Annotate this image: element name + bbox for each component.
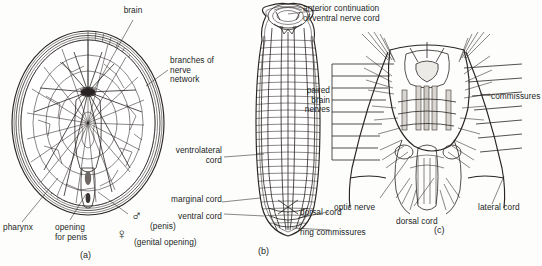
label-penis: (penis) bbox=[150, 222, 176, 232]
male-symbol-icon: ♂ bbox=[131, 208, 142, 223]
label-dorsal-cord-c: dorsal cord bbox=[396, 217, 438, 227]
panel-c-illustration bbox=[332, 28, 522, 228]
panel-caption-b: (b) bbox=[258, 246, 269, 256]
label-opening-for-penis: opening for penis bbox=[55, 223, 103, 242]
panel-caption-a: (a) bbox=[80, 250, 91, 260]
label-paired-brain-nerves: paired brain nerves bbox=[290, 86, 330, 115]
label-genital-opening: (genital opening) bbox=[134, 238, 197, 248]
genital-pore bbox=[86, 193, 91, 203]
panel-caption-c: (c) bbox=[434, 225, 445, 235]
label-branches-of-nerve-network: branches of nerve network bbox=[170, 56, 232, 85]
commissure-bundles bbox=[398, 86, 456, 130]
label-brain: brain bbox=[110, 6, 156, 16]
ganglion-lobes bbox=[405, 42, 450, 88]
label-ring-commissures: ring commissures bbox=[300, 228, 366, 238]
penis-sac bbox=[85, 171, 91, 185]
label-anterior-continuation: anterior continuation of ventral nerve c… bbox=[303, 4, 419, 23]
label-pharynx: pharynx bbox=[3, 223, 33, 233]
right-body-rings bbox=[464, 64, 522, 152]
label-commissures: commissures bbox=[491, 92, 540, 102]
label-lateral-cord: lateral cord bbox=[478, 203, 520, 213]
label-marginal-cord: marginal cord bbox=[158, 195, 222, 205]
label-ventrolateral-cord: ventrolateral cord bbox=[160, 146, 222, 165]
label-optic-nerve: optic nerve bbox=[334, 203, 375, 213]
female-symbol-icon: ♀ bbox=[116, 226, 127, 241]
figure-nervous-system: brain branches of nerve network pharynx … bbox=[0, 0, 542, 266]
label-ventral-cord: ventral cord bbox=[162, 212, 222, 222]
